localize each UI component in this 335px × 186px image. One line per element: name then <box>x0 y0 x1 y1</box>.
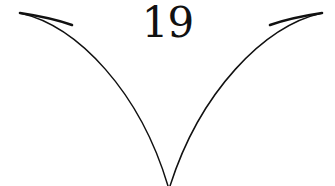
page-ornament-figure: 19 <box>0 0 335 186</box>
page-number-folio: 19 <box>0 0 335 46</box>
